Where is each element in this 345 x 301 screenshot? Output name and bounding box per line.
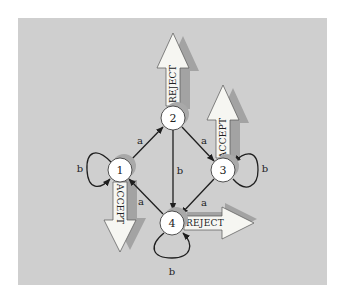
edge-label-4-4: b (169, 266, 175, 277)
node-1-label: 1 (117, 164, 124, 177)
output-label-4: REJECT (186, 218, 224, 228)
edge-label-2-4: b (177, 165, 183, 176)
node-4-label: 4 (169, 217, 176, 230)
edge-label-1-2: a (137, 135, 143, 146)
edge-label-4-1: a (138, 196, 144, 207)
output-label-3: ACCEPT (218, 118, 228, 160)
output-label-2: REJECT (168, 65, 178, 103)
edge-label-3-4: a (201, 197, 207, 208)
output-label-1: ACCEPT (115, 183, 125, 225)
node-3-label: 3 (220, 164, 227, 177)
node-2-label: 2 (170, 112, 177, 125)
edge-label-2-3: a (201, 135, 207, 146)
automaton-diagram: REJECT ACCEPT ACCEPT REJECT a (0, 0, 345, 301)
edge-label-3-3: b (262, 163, 268, 174)
edge-label-1-1: b (77, 163, 83, 174)
